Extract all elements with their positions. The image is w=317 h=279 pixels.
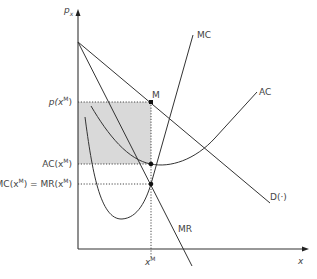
mr-label: MR	[178, 225, 192, 234]
x-axis-label: x	[298, 257, 303, 266]
mc-mr-tick-label: MC(xM) = MR(xM)	[0, 178, 72, 189]
price-tick-label: p(xM)	[49, 96, 72, 107]
y-axis-label: px	[64, 6, 73, 17]
x-axis-arrow-icon	[302, 247, 309, 252]
quantity-tick-label: xM	[145, 256, 156, 267]
point-m-label: M	[152, 91, 160, 100]
ac-tick-label: AC(xM)	[42, 158, 72, 169]
y-axis-arrow-icon	[76, 9, 81, 16]
demand-label: D(·)	[270, 193, 287, 202]
point-mc-mr	[149, 182, 154, 187]
monopoly-diagram	[0, 0, 317, 279]
point-m	[149, 100, 153, 104]
mc-label: MC	[197, 31, 211, 40]
profit-area	[78, 102, 151, 164]
point-ac	[149, 162, 154, 167]
ac-label: AC	[259, 88, 271, 97]
